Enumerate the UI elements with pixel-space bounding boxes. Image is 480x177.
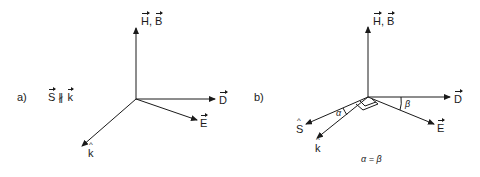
b-vector-label: B (387, 15, 394, 27)
h-vector-label: H (373, 15, 381, 27)
not-parallel-symbol: ∦ (58, 91, 64, 103)
panel-a-label: a) (17, 91, 27, 103)
alpha-equals-beta: α = β (361, 153, 382, 165)
a-axis-e (136, 99, 197, 120)
s-hat-label: S (296, 123, 303, 135)
k-vector-label: k (67, 91, 73, 103)
b-hb-label: H, B (373, 15, 394, 27)
s-not-parallel-k: S ∦ k (48, 91, 73, 103)
d-vector-label: D (219, 94, 227, 106)
k-hat-label: k (88, 147, 94, 159)
b-d-label: D (454, 93, 462, 105)
b-k-label: k (315, 142, 321, 154)
h-vector-label: H (141, 15, 149, 27)
k-hat-label: k (315, 142, 321, 154)
a-e-label: E (200, 117, 207, 129)
alpha-arc (343, 108, 347, 115)
b-s-label: S (296, 123, 303, 135)
a-d-label: D (219, 94, 227, 106)
e-vector-label: E (437, 122, 444, 134)
b-axis-k (317, 97, 368, 138)
a-hb-label: H, B (141, 15, 162, 27)
a-k-label: k (88, 147, 94, 159)
e-vector-label: E (200, 117, 207, 129)
beta-arc (400, 97, 401, 110)
s-vector-label: S (48, 91, 55, 103)
b-e-label: E (437, 122, 444, 134)
panel-b-label: b) (254, 91, 264, 103)
b-vector-label: B (155, 15, 162, 27)
alpha-label: α (336, 107, 341, 119)
d-vector-label: D (454, 93, 462, 105)
beta-label: β (405, 98, 410, 110)
